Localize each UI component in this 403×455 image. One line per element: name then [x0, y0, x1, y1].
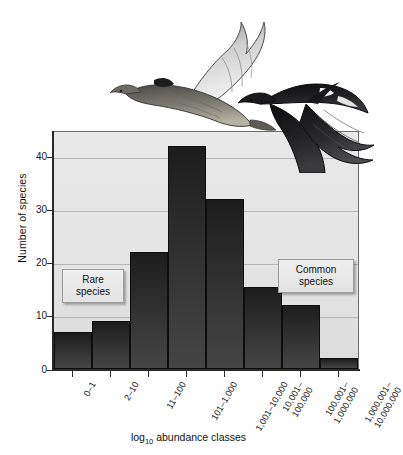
x-tick-label-1: 2–10 — [122, 380, 141, 403]
x-axis-title-pre: log — [131, 431, 145, 443]
x-tick-5 — [262, 371, 263, 377]
bar-5 — [244, 287, 282, 369]
bar-3 — [168, 146, 206, 369]
x-tick-label-0: 0–1 — [82, 380, 99, 398]
x-tick-label-2: 11–100 — [165, 380, 189, 411]
annotation-rare-line1: Rare — [69, 274, 117, 286]
x-tick-label-3: 101–1,000 — [209, 380, 239, 422]
x-label-line: 0–1 — [82, 380, 99, 398]
y-axis-line — [52, 131, 54, 371]
x-tick-2 — [148, 371, 149, 377]
bar-2 — [130, 252, 168, 369]
x-tick-label-7: 1,000,001– 10,000,000 — [363, 380, 403, 430]
x-tick-3 — [186, 371, 187, 377]
x-label-line: 2–10 — [122, 380, 141, 403]
annotation-common-line1: Common — [285, 264, 347, 276]
bar-7 — [320, 358, 358, 369]
x-tick-0 — [72, 371, 73, 377]
bar-4 — [206, 199, 244, 369]
y-tick-label-0: 0 — [19, 365, 47, 375]
x-axis-line — [53, 369, 360, 371]
bar-series — [54, 132, 358, 369]
x-tick-6 — [300, 371, 301, 377]
plot-area: Rare species Common species — [53, 131, 359, 370]
annotation-rare-line2: species — [69, 286, 117, 298]
x-axis-title: log10 abundance classes — [0, 431, 377, 446]
bar-1 — [92, 321, 130, 369]
x-axis-title-subscript: 10 — [145, 437, 153, 446]
x-tick-label-6: 100,001– 1,000,000 — [322, 380, 360, 425]
x-label-line: 11–100 — [165, 380, 189, 411]
bar-0 — [54, 332, 92, 369]
x-tick-1 — [110, 371, 111, 377]
x-tick-7 — [338, 371, 339, 377]
duck-left — [110, 22, 276, 130]
annotation-common-species: Common species — [278, 259, 354, 293]
y-tick-label-10: 10 — [19, 311, 47, 321]
x-axis-title-post: abundance classes — [153, 431, 246, 443]
y-axis-title: Number of species — [16, 148, 28, 288]
bar-6 — [282, 305, 320, 369]
annotation-rare-species: Rare species — [62, 269, 124, 303]
x-label-line: 101–1,000 — [209, 380, 239, 422]
annotation-common-line2: species — [285, 276, 347, 288]
x-tick-4 — [224, 371, 225, 377]
